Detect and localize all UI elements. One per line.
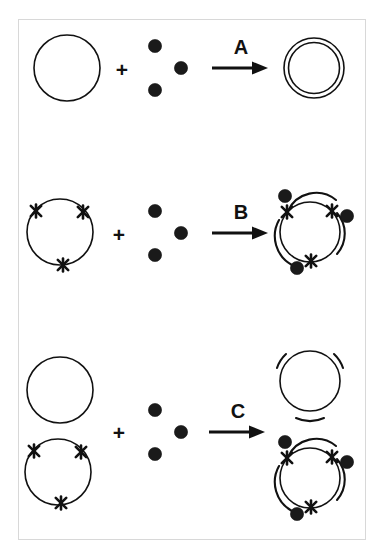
row-b-reactant-receptor-circle (27, 199, 93, 271)
reaction-arrow-a (212, 62, 268, 75)
reaction-row-b: + B (27, 189, 354, 274)
receptor-x-icon (29, 445, 39, 458)
receptor-x-icon (327, 205, 337, 218)
arrow-label-b: B (234, 201, 248, 223)
bound-particle-dot (278, 189, 291, 202)
row-c-reactant-receptor-circle (25, 439, 91, 509)
reaction-row-a: + A (34, 35, 344, 101)
plus-sign-row-b: + (113, 223, 125, 246)
bound-particle-dot (340, 455, 353, 468)
row-b-particle-group (148, 204, 187, 261)
reaction-arrow-b (212, 227, 268, 240)
arrow-label-a: A (234, 36, 248, 58)
figure-root: + A (0, 0, 386, 559)
row-c-reactant-plain-circle (27, 357, 93, 423)
row-c-product-bound-complex (275, 435, 354, 520)
detached-arc-fragment (296, 418, 324, 421)
bound-particle-dot (278, 435, 291, 448)
row-c-product-plain-circle-with-arcs (277, 351, 343, 421)
row-b-product-bound-complex (275, 189, 354, 274)
receptor-x-icon (56, 497, 66, 510)
receptor-x-icon (31, 205, 41, 218)
bound-particle-dot (340, 209, 353, 222)
bound-particle-dot (290, 507, 303, 520)
reaction-arrow-c (209, 426, 265, 439)
coat-arc-fragment (275, 466, 292, 511)
row-a-product-double-ring-circle (284, 38, 344, 98)
row-a-particle-group (148, 39, 187, 96)
reaction-row-c: + C (25, 351, 354, 521)
row-c-particle-group (148, 403, 187, 460)
receptor-x-icon (282, 206, 292, 219)
vesicle-circle (27, 357, 93, 423)
bound-particle-dot (290, 261, 303, 274)
plus-sign-row-c: + (113, 421, 125, 444)
vesicle-circle (280, 351, 340, 411)
arrow-label-c: C (231, 400, 245, 422)
receptor-x-icon (282, 452, 292, 465)
vesicle-circle (284, 38, 344, 98)
row-a-reactant-plain-circle (34, 35, 100, 101)
receptor-x-icon (327, 451, 337, 464)
vesicle-coat-ring (289, 43, 340, 94)
vesicle-circle (34, 35, 100, 101)
reaction-scheme-diagram: + A (0, 0, 386, 559)
plus-sign-row-a: + (116, 58, 128, 81)
coat-arc-fragment (275, 220, 292, 265)
